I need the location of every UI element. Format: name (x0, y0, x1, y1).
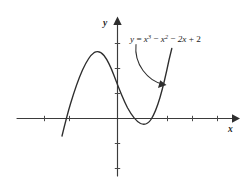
y-axis-label: y (102, 18, 108, 28)
equation-op3: + (186, 34, 196, 44)
cubic-function-plot: x y y = x3 − x2 − 2x + 2 (0, 0, 252, 184)
function-curve (62, 49, 172, 137)
equation-label: y = x3 − x2 − 2x + 2 (129, 33, 201, 44)
x-axis-label: x (227, 124, 233, 134)
figure-container: x y y = x3 − x2 − 2x + 2 (0, 0, 252, 184)
annotation-arrow-curve (136, 45, 163, 85)
equation-op1: − (151, 34, 161, 44)
x-axis-arrowhead (232, 114, 240, 122)
equation-op2: − (168, 34, 178, 44)
annotation-arrow (136, 45, 167, 89)
y-axis: y (102, 17, 122, 177)
x-axis: x (17, 114, 240, 134)
y-axis-arrowhead (113, 17, 121, 26)
equation-equals: = (134, 34, 144, 44)
equation-term4: 2 (196, 34, 201, 44)
